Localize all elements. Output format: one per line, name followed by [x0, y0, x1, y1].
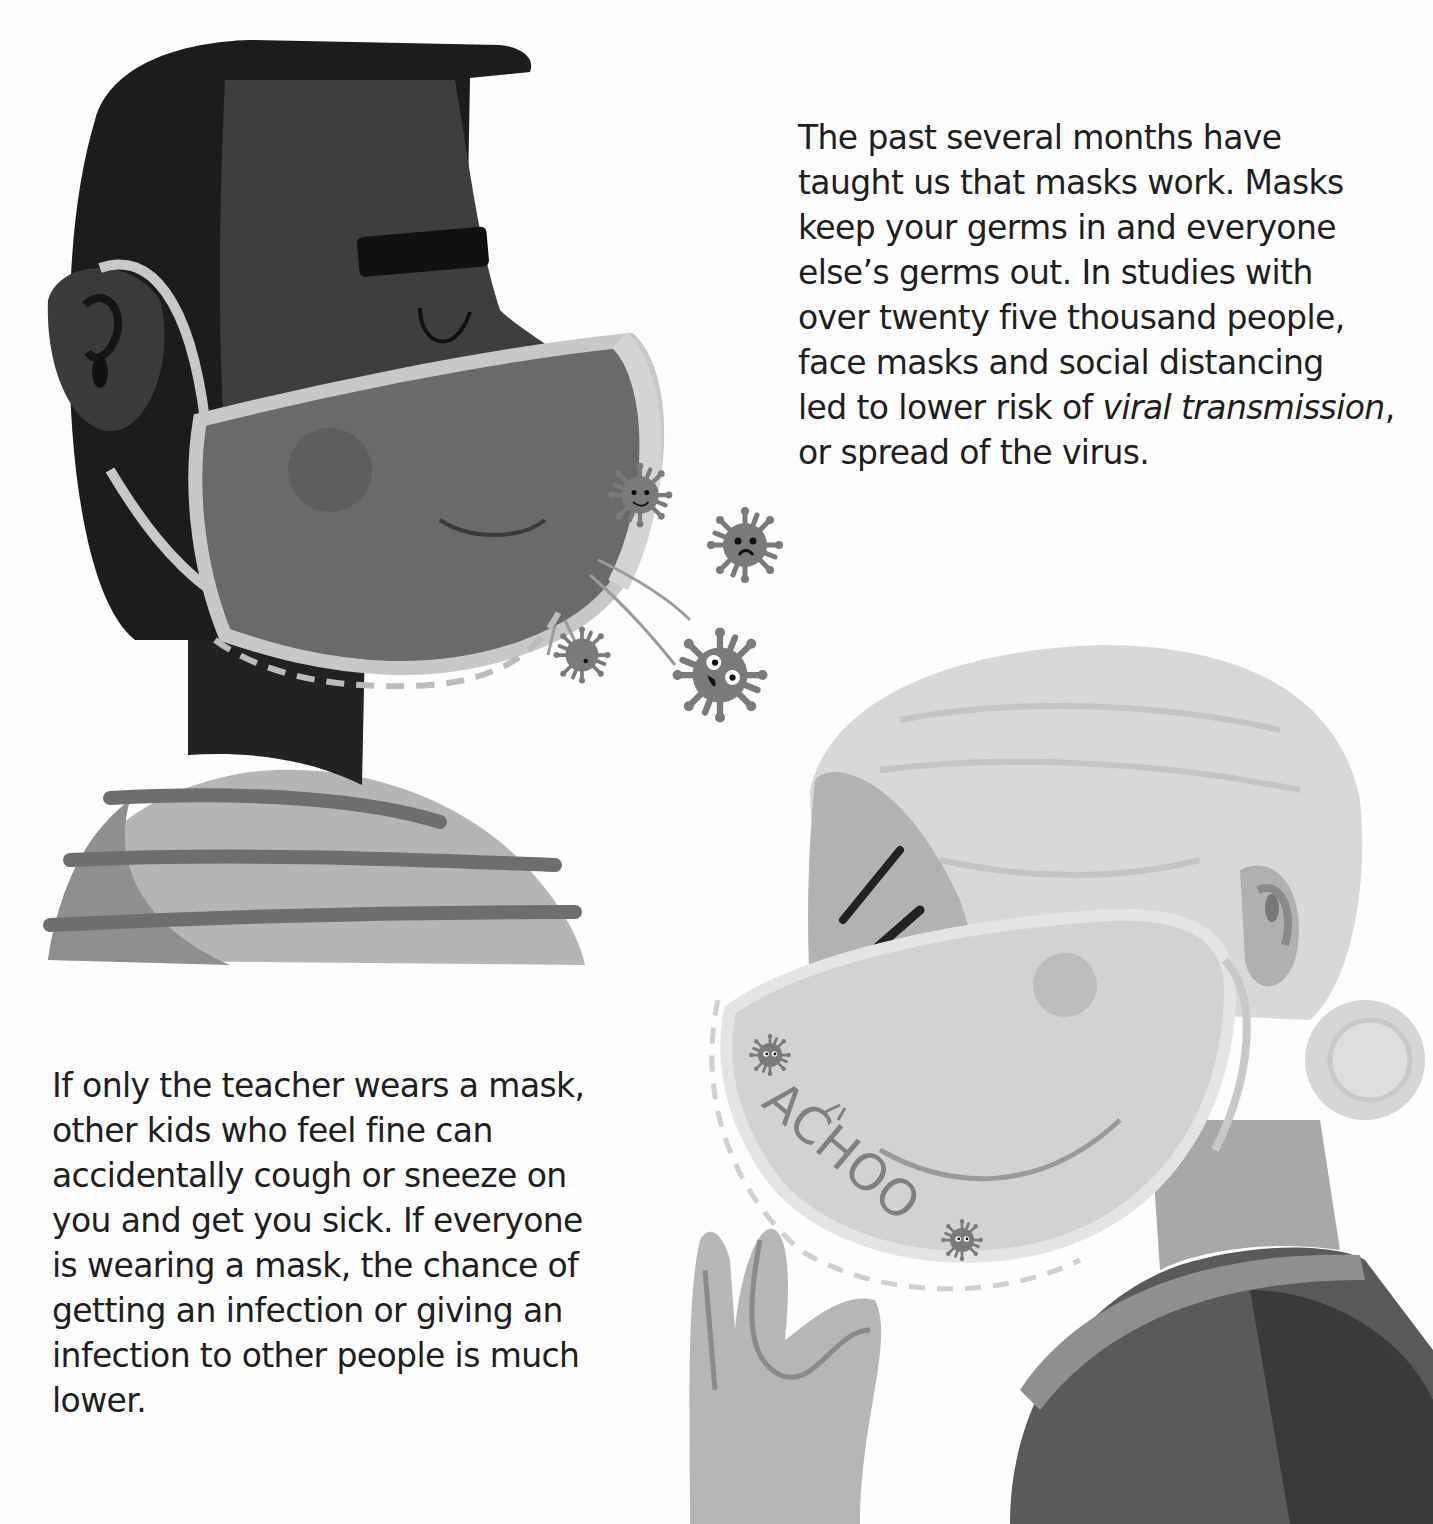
paragraph-line: other kids who feel fine can	[52, 1108, 585, 1153]
virus-icon	[941, 1219, 983, 1261]
paragraph-line: is wearing a mask, the chance of	[52, 1243, 585, 1288]
line-text: led to lower risk of	[798, 388, 1102, 427]
virus-icon	[707, 507, 783, 583]
paragraph-line: If only the teacher wears a mask,	[52, 1063, 585, 1108]
paragraph-line: keep your germs in and everyone	[798, 205, 1395, 250]
masked-man-figure	[48, 40, 657, 965]
virus-icon	[673, 628, 768, 723]
bottom-paragraph: If only the teacher wears a mask, other …	[52, 1063, 585, 1423]
virus-icon	[608, 463, 673, 528]
paragraph-line: getting an infection or giving an	[52, 1288, 585, 1333]
paragraph-line: else’s germs out. In studies with	[798, 250, 1395, 295]
paragraph-line: face masks and social distancing	[798, 340, 1395, 385]
top-paragraph: The past several months have taught us t…	[798, 115, 1395, 475]
paragraph-line: or spread of the virus.	[798, 430, 1395, 475]
paragraph-line: you and get you sick. If everyone	[52, 1198, 585, 1243]
masked-woman-figure: ACHOO	[689, 645, 1433, 1524]
virus-icon	[749, 1034, 791, 1076]
paragraph-line: accidentally cough or sneeze on	[52, 1153, 585, 1198]
italic-term: viral transmission	[1102, 388, 1384, 427]
paragraph-line: infection to other people is much	[52, 1333, 585, 1378]
paragraph-line: over twenty five thousand people,	[798, 295, 1395, 340]
virus-icon	[554, 627, 611, 684]
paragraph-line: led to lower risk of viral transmission,	[798, 385, 1395, 430]
paragraph-line: The past several months have	[798, 115, 1395, 160]
paragraph-line: lower.	[52, 1378, 585, 1423]
line-text: ,	[1385, 388, 1395, 427]
paragraph-line: taught us that masks work. Masks	[798, 160, 1395, 205]
